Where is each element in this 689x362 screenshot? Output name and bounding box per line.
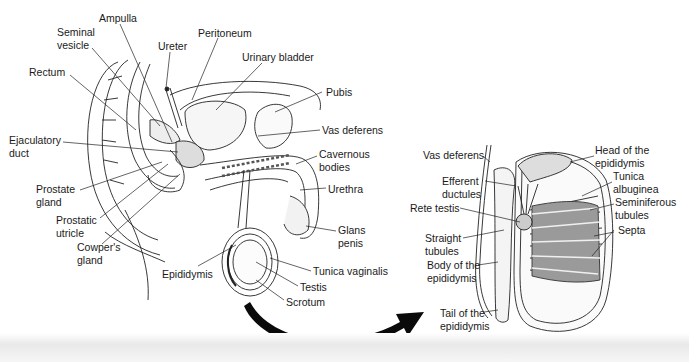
label-peritoneum: Peritoneum — [198, 27, 252, 40]
label-glans-penis: Glans penis — [338, 224, 365, 249]
left-sagittal-drawing — [88, 60, 321, 300]
page-bottom-shadow — [0, 333, 689, 362]
label-seminiferous-tubules: Seminiferous tubules — [615, 196, 676, 221]
label-straight-tubules: Straight tubules — [425, 232, 461, 257]
label-tail-of-epididymis: Tail of the epididymis — [440, 307, 490, 332]
label-vas-deferens-right: Vas deferens — [423, 149, 484, 162]
label-tunica-albuginea: Tunica albuginea — [613, 170, 659, 195]
label-urinary-bladder: Urinary bladder — [242, 51, 314, 64]
label-ejaculatory-duct: Ejaculatory duct — [9, 134, 61, 159]
label-pubis: Pubis — [326, 86, 352, 99]
label-urethra: Urethra — [328, 183, 363, 196]
label-ampulla: Ampulla — [99, 12, 137, 25]
label-prostate-gland: Prostate gland — [36, 183, 75, 208]
label-rete-testis: Rete testis — [410, 202, 460, 215]
label-efferent-ductules: Efferent ductules — [442, 175, 481, 200]
label-cavernous-bodies: Cavernous bodies — [319, 148, 370, 173]
label-vas-deferens-left: Vas deferens — [322, 124, 383, 137]
label-epididymis: Epididymis — [162, 268, 213, 281]
label-septa: Septa — [618, 224, 645, 237]
anatomy-figure: Ampulla Seminal vesicle Ureter Peritoneu… — [0, 0, 689, 362]
label-scrotum: Scrotum — [286, 296, 325, 309]
anatomy-drawing — [0, 0, 689, 362]
label-rectum: Rectum — [29, 66, 65, 79]
right-testis-drawing — [476, 145, 613, 331]
label-cowpers-gland: Cowper's gland — [77, 241, 120, 266]
label-body-of-epididymis: Body of the epididymis — [427, 259, 480, 284]
label-ureter: Ureter — [158, 40, 187, 53]
label-seminal-vesicle: Seminal vesicle — [57, 26, 95, 51]
label-tunica-vaginalis: Tunica vaginalis — [313, 265, 388, 278]
label-head-of-epididymis: Head of the epididymis — [595, 144, 649, 169]
label-testis: Testis — [300, 281, 327, 294]
label-prostatic-utricle: Prostatic utricle — [56, 214, 97, 239]
